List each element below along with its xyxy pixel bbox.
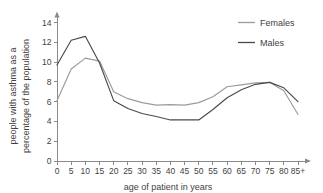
y-axis-title-line1: people with asthma as a	[8, 47, 18, 144]
series-line-females	[57, 58, 298, 114]
x-tick-label: 40	[166, 166, 176, 176]
y-tick-label: 2	[47, 136, 52, 146]
y-axis-title-line2: percentage of the population	[21, 39, 31, 153]
y-tick-label: 6	[47, 97, 52, 107]
asthma-prevalence-chart: 02468101214 0510152025303540455055606570…	[0, 0, 323, 193]
x-tick-label: 60	[222, 166, 232, 176]
x-tick-label: 30	[137, 166, 147, 176]
y-tick-label: 14	[42, 18, 52, 28]
y-tick-label: 0	[47, 156, 52, 166]
x-axis-arrow-icon	[305, 158, 311, 163]
x-tick-label: 5	[69, 166, 74, 176]
series-line-males	[57, 36, 298, 120]
x-tick-label: 80	[279, 166, 289, 176]
y-tick-label: 10	[42, 57, 52, 67]
x-tick-label: 15	[95, 166, 105, 176]
x-tick-label: 10	[81, 166, 91, 176]
x-tick-label: 75	[265, 166, 275, 176]
chart-legend: FemalesMales	[238, 18, 295, 48]
chart-canvas: 02468101214 0510152025303540455055606570…	[0, 0, 323, 193]
x-tick-label: 45	[180, 166, 190, 176]
legend-label-females: Females	[260, 18, 295, 28]
x-tick-label: 70	[251, 166, 261, 176]
y-axis-arrow-icon	[54, 12, 59, 18]
x-tick-label: 20	[109, 166, 119, 176]
series-lines	[57, 36, 298, 120]
x-axis-title: age of patient in years	[124, 182, 213, 192]
x-tick-label: 50	[194, 166, 204, 176]
x-tick-label: 35	[152, 166, 162, 176]
x-tick-label: 85+	[291, 166, 305, 176]
x-tick-label: 25	[123, 166, 133, 176]
x-tick-label: 55	[208, 166, 218, 176]
y-tick-label: 12	[42, 37, 52, 47]
x-axis-group: 0510152025303540455055606570758085+	[55, 158, 311, 176]
y-axis-group: 02468101214	[42, 12, 60, 167]
y-axis-ticks: 02468101214	[42, 18, 57, 167]
y-tick-label: 8	[47, 77, 52, 87]
x-axis-ticks: 0510152025303540455055606570758085+	[55, 161, 306, 176]
y-tick-label: 4	[47, 116, 52, 126]
legend-label-males: Males	[260, 38, 285, 48]
x-tick-label: 0	[55, 166, 60, 176]
x-tick-label: 65	[237, 166, 247, 176]
